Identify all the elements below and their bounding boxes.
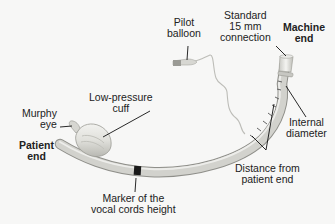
label-vocal-cords-marker: Marker of the vocal cords height (91, 193, 176, 215)
label-murphy-eye: Murphy eye (18, 108, 57, 130)
label-pilot-balloon: Pilot balloon (167, 17, 201, 39)
machine-connector (278, 55, 293, 77)
label-standard-connection: Standard 15 mm connection (220, 10, 271, 43)
pilot-line (195, 55, 245, 134)
label-patient-end: Patient end (19, 140, 54, 162)
label-low-pressure-cuff: Low-pressure cuff (89, 92, 153, 114)
label-machine-end: Machine end (283, 22, 325, 44)
vocal-cords-marker (134, 166, 142, 175)
label-distance-from-patient-end: Distance from patient end (235, 163, 300, 185)
label-internal-diameter: Internal diameter (286, 117, 327, 139)
pilot-balloon (173, 59, 197, 66)
